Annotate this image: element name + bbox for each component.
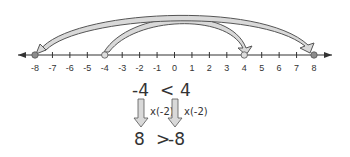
tick-label: 7 — [294, 63, 299, 73]
top-left-value: -4 — [132, 80, 149, 100]
arc-4-to-minus8 — [36, 15, 314, 54]
tick-label: -8 — [31, 63, 39, 73]
tick-label: 4 — [242, 63, 247, 73]
marked-point — [241, 52, 247, 58]
number-line: -8-7-6-5-4-3-2-1012345678 — [18, 52, 332, 73]
marked-point — [311, 52, 317, 58]
bottom-right-value: -8 — [168, 129, 185, 149]
inequality-expression: -4 < 4 x(-2) x(-2) 8 > -8 — [132, 80, 208, 149]
tick-label: -2 — [136, 63, 144, 73]
tick-label: 6 — [277, 63, 282, 73]
tick-label: 0 — [172, 63, 177, 73]
right-arrow-icon — [324, 52, 332, 58]
multiplier-right: x(-2) — [184, 106, 208, 117]
tick-label: 1 — [189, 63, 194, 73]
top-right-value: 4 — [180, 80, 191, 100]
tick-label: -4 — [101, 63, 109, 73]
left-arrow-icon — [18, 52, 26, 58]
inequality-diagram: -8-7-6-5-4-3-2-1012345678 -4 < 4 x(-2) x… — [0, 0, 350, 157]
tick-label: -3 — [118, 63, 126, 73]
tick-label: -5 — [83, 63, 91, 73]
tick-label: 3 — [224, 63, 229, 73]
tick-label: 8 — [311, 63, 316, 73]
tick-label: -1 — [153, 63, 161, 73]
multiplier-left: x(-2) — [150, 106, 174, 117]
marked-point — [32, 52, 38, 58]
tick-label: 2 — [207, 63, 212, 73]
bottom-left-value: 8 — [134, 129, 145, 149]
tick-label: -7 — [48, 63, 56, 73]
down-arrow-icon — [134, 99, 148, 127]
marked-point — [102, 52, 108, 58]
top-operator: < — [160, 80, 174, 100]
tick-label: 5 — [259, 63, 264, 73]
tick-label: -6 — [66, 63, 74, 73]
